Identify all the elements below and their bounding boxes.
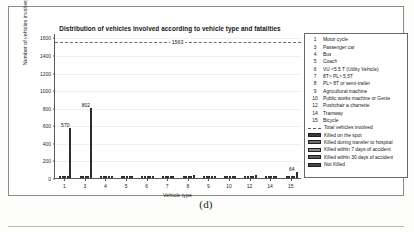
legend-color-swatch <box>308 140 321 144</box>
bar-group <box>245 33 257 178</box>
legend-vehicle-type-label: Tramway <box>323 111 343 116</box>
bar-group <box>286 33 298 178</box>
legend-vehicle-type-row: 12Pushchair a charrette <box>307 102 404 109</box>
bar <box>234 176 236 178</box>
y-tick-label: 400 <box>43 141 51 147</box>
bar <box>275 176 277 178</box>
bar-value-label: 802 <box>82 102 90 108</box>
total-reference-label: 1563 <box>170 38 186 44</box>
x-tick-mark <box>64 179 65 181</box>
x-tick-mark <box>250 179 251 181</box>
bar-group <box>224 33 236 178</box>
legend-series-row: Killed within 30 days of accident <box>307 154 404 161</box>
legend-series-label: Not Killed <box>324 162 345 167</box>
x-tick-label: 1 <box>63 183 66 189</box>
x-tick-label: 12 <box>247 183 253 189</box>
bar-group <box>100 33 112 178</box>
legend-vehicle-type-key: 6 <box>307 67 323 72</box>
legend-series-row: Killed during transfer to hospital <box>307 139 404 146</box>
bar <box>152 176 154 178</box>
legend-vehicle-type-label: 8T> PL> 5,5T <box>323 74 353 79</box>
legend-dashed-line-swatch <box>308 128 321 129</box>
page-rule <box>8 226 404 227</box>
x-tick-label: 3 <box>83 183 86 189</box>
y-axis-ticks: 02004006008001000120014001600 <box>31 34 53 179</box>
x-tick-mark <box>208 179 209 181</box>
x-tick-label: 7 <box>166 183 169 189</box>
legend-series-label: Total vehicles involved <box>324 125 373 130</box>
legend-vehicle-type-key: 15 <box>307 118 323 123</box>
legend-series-label: Killed during transfer to hospital <box>324 140 393 145</box>
bar <box>255 175 257 178</box>
legend-vehicle-type-row: 15Bicycle <box>307 117 404 124</box>
bar-group <box>203 33 215 178</box>
x-tick-mark <box>126 179 127 181</box>
x-tick-mark <box>105 179 106 181</box>
legend-vehicle-type-row: 9Agricultural machine <box>307 87 404 94</box>
bar-group <box>183 33 195 178</box>
x-tick-mark <box>85 179 86 181</box>
x-tick-label: 10 <box>226 183 232 189</box>
x-tick-label: 14 <box>267 183 273 189</box>
legend-vehicle-type-row: 6VU <5.5 T (Utility Vehicle) <box>307 65 404 72</box>
plot-canvas: 57080264 <box>54 34 301 179</box>
x-tick-mark <box>291 179 292 181</box>
legend-vehicle-type-key: 3 <box>307 45 323 50</box>
legend-vehicle-type-label: Passenger car <box>323 45 355 50</box>
gridline <box>55 56 301 57</box>
y-tick-label: 0 <box>48 176 51 182</box>
legend-vehicle-type-label: Bus <box>323 52 331 57</box>
legend-series-row: Killed within 7 days of accident <box>307 146 404 153</box>
bar <box>214 176 216 178</box>
legend-vehicle-type-key: 5 <box>307 59 323 64</box>
bar-group <box>162 33 174 178</box>
x-tick-mark <box>167 179 168 181</box>
legend-vehicle-type-key: 14 <box>307 111 323 116</box>
bar-group <box>265 33 277 178</box>
chart-legend: 1Motor cycle3Passenger car4Bus5Coach6VU … <box>304 33 408 178</box>
bar-value-label: 64 <box>289 166 295 172</box>
legend-series-row: Not Killed <box>307 161 404 168</box>
legend-vehicle-type-label: Agricultural machine <box>323 89 367 94</box>
bar <box>193 175 195 178</box>
legend-vehicle-type-label: Pushchair a charrette <box>323 103 370 108</box>
legend-vehicle-type-key: 4 <box>307 52 323 57</box>
legend-vehicle-type-key: 12 <box>307 103 323 108</box>
legend-color-swatch <box>308 148 321 152</box>
legend-vehicle-type-label: VU <5.5 T (Utility Vehicle) <box>323 67 379 72</box>
figure-caption: (d) <box>199 198 212 210</box>
legend-vehicle-type-key: 9 <box>307 89 323 94</box>
legend-vehicle-type-key: 8 <box>307 81 323 86</box>
bar-group <box>142 33 154 178</box>
legend-vehicle-type-label: PL> 8T or semi-trailer <box>323 81 370 86</box>
x-tick-mark <box>147 179 148 181</box>
legend-vehicle-type-row: 3Passenger car <box>307 43 404 50</box>
y-tick-label: 1600 <box>40 35 51 41</box>
bar <box>90 108 92 178</box>
y-tick-label: 1000 <box>40 88 51 94</box>
legend-vehicle-type-row: 14Tramway <box>307 109 404 116</box>
bar-value-label: 570 <box>61 122 69 128</box>
bar <box>172 176 174 178</box>
x-tick-mark <box>229 179 230 181</box>
legend-vehicle-type-row: 78T> PL> 5,5T <box>307 73 404 80</box>
x-tick-mark <box>270 179 271 181</box>
figure-sheet: Distribution of vehicles involved accord… <box>8 6 404 196</box>
legend-vehicle-type-label: Bicycle <box>323 118 339 123</box>
x-tick-mark <box>188 179 189 181</box>
bar <box>69 128 71 178</box>
gridline <box>55 74 301 75</box>
legend-vehicle-type-label: Coach <box>323 59 337 64</box>
chart-title: Distribution of vehicles involved accord… <box>39 24 301 33</box>
x-tick-label: 4 <box>104 183 107 189</box>
legend-series-row: Total vehicles involved <box>307 124 404 131</box>
plot-area-wrapper: Number of vehicles involved 020040060080… <box>23 34 301 194</box>
figure-page: Distribution of vehicles involved accord… <box>0 0 414 232</box>
legend-color-swatch <box>308 155 321 159</box>
legend-series-label: Killed on the spot <box>324 133 362 138</box>
legend-vehicle-type-label: Motor cycle <box>323 37 348 42</box>
legend-vehicle-type-key: 1 <box>307 37 323 42</box>
bar <box>131 176 133 178</box>
x-tick-label: 6 <box>145 183 148 189</box>
legend-series-row: Killed on the spot <box>307 131 404 138</box>
